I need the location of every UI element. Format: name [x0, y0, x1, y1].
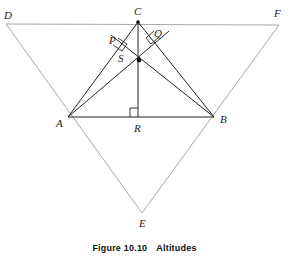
point-label-C: C: [134, 6, 141, 17]
point-label-E: E: [139, 218, 146, 229]
altitudes-group: [68, 22, 214, 117]
altitude-A-to-Q: [68, 31, 169, 117]
point-label-B: B: [220, 114, 227, 125]
figure-caption: Figure 10.10Altitudes: [0, 243, 289, 253]
triangle-DEF: [6, 24, 279, 213]
point-label-P: P: [109, 35, 116, 46]
figure-caption-number: Figure 10.10: [92, 243, 147, 253]
orthocenter-dot-S: [137, 58, 142, 63]
right-angle-marks: [113, 31, 159, 117]
point-label-Q: Q: [154, 28, 162, 39]
segment-BC: [138, 22, 214, 117]
point-label-A: A: [56, 118, 63, 129]
point-label-S: S: [118, 53, 124, 64]
point-label-D: D: [4, 10, 12, 21]
figure-altitudes: D C F P Q S A R B E Figure 10.10Altitude…: [0, 0, 289, 262]
altitude-B-to-P: [111, 35, 214, 117]
figure-caption-title: Altitudes: [156, 243, 196, 253]
segment-DF: [6, 24, 279, 25]
point-label-F: F: [274, 8, 281, 19]
triangle-ABC: [68, 22, 214, 117]
right-angle-at-R: [130, 108, 138, 117]
point-label-R: R: [134, 123, 141, 134]
segment-AC: [68, 22, 138, 117]
vertex-dot-C: [136, 20, 140, 24]
